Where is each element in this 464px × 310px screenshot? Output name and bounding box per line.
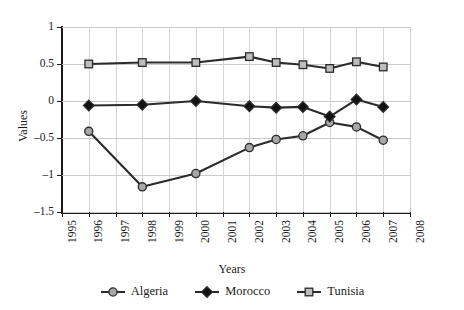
y-tick-label: –1.5 [34, 206, 54, 218]
chart-legend: AlgeriaMoroccoTunisia [0, 284, 464, 299]
x-tick-label: 2001 [227, 220, 239, 243]
x-tick [249, 212, 250, 217]
x-tick [169, 212, 170, 217]
legend-label: Morocco [225, 284, 270, 299]
x-tick-label: 1999 [174, 220, 186, 243]
x-tick [116, 212, 117, 217]
x-tick-label: 2007 [388, 220, 400, 243]
legend-item-tunisia[interactable]: Tunisia [296, 284, 364, 299]
x-tick [223, 212, 224, 217]
data-point [352, 123, 360, 131]
x-tick-label: 2004 [307, 220, 319, 243]
x-tick-label: 1998 [147, 220, 159, 243]
gridline-horizontal [62, 212, 410, 213]
data-point [85, 127, 93, 135]
circle-marker-icon [100, 285, 126, 299]
y-axis-title: Values [16, 110, 31, 142]
data-point [244, 101, 255, 112]
series-layer [62, 27, 410, 212]
data-point [298, 102, 309, 113]
chart-figure: Values Years 10.50–0.5–1–1.5 19951996199… [0, 0, 464, 310]
data-point [379, 63, 387, 71]
data-point [299, 61, 307, 69]
data-point [137, 99, 148, 110]
x-tick [142, 212, 143, 217]
x-tick-label: 2002 [254, 220, 266, 243]
gridline-vertical [410, 27, 411, 212]
x-tick-label: 2000 [200, 220, 212, 243]
legend-label: Algeria [131, 284, 168, 299]
x-tick-label: 2006 [361, 220, 373, 243]
y-tick-label: 0.5 [40, 58, 54, 70]
data-point [299, 132, 307, 140]
y-tick-label: 1 [48, 21, 54, 33]
data-point [85, 60, 93, 68]
data-point [246, 53, 254, 61]
x-tick-label: 1995 [67, 220, 79, 243]
x-tick [196, 212, 197, 217]
data-point [353, 58, 361, 66]
x-tick [410, 212, 411, 217]
diamond-marker-icon [194, 285, 220, 299]
legend-label: Tunisia [327, 284, 364, 299]
data-point [379, 136, 387, 144]
data-point [378, 102, 389, 113]
data-point [271, 102, 282, 113]
x-tick [276, 212, 277, 217]
x-tick-label: 1996 [93, 220, 105, 243]
data-point [245, 144, 253, 152]
series-line [89, 122, 383, 186]
data-point [191, 96, 202, 107]
legend-item-morocco[interactable]: Morocco [194, 284, 270, 299]
data-point [139, 59, 147, 67]
data-point [272, 135, 280, 143]
x-axis-title: Years [0, 262, 464, 277]
y-tick-label: –0.5 [34, 132, 54, 144]
data-point [326, 65, 334, 73]
data-point [192, 59, 200, 67]
x-tick-label: 2008 [415, 220, 427, 243]
x-tick [89, 212, 90, 217]
x-tick [356, 212, 357, 217]
x-tick [62, 212, 63, 217]
x-tick-label: 2003 [281, 220, 293, 243]
x-tick-label: 1997 [120, 220, 132, 243]
series-morocco [83, 94, 388, 122]
series-line [89, 100, 383, 117]
data-point [351, 94, 362, 105]
plot-area: 10.50–0.5–1–1.5 199519961997199819992000… [62, 27, 410, 212]
data-point [192, 169, 200, 177]
data-point [272, 59, 280, 67]
y-tick-label: –1 [43, 169, 55, 181]
x-tick [383, 212, 384, 217]
y-tick-label: 0 [48, 95, 54, 107]
series-algeria [85, 118, 388, 191]
x-tick [303, 212, 304, 217]
data-point [138, 183, 146, 191]
x-tick-label: 2005 [334, 220, 346, 243]
series-line [89, 57, 383, 69]
data-point [83, 100, 94, 111]
series-tunisia [85, 53, 387, 72]
x-tick [330, 212, 331, 217]
legend-item-algeria[interactable]: Algeria [100, 284, 168, 299]
square-marker-icon [296, 285, 322, 299]
